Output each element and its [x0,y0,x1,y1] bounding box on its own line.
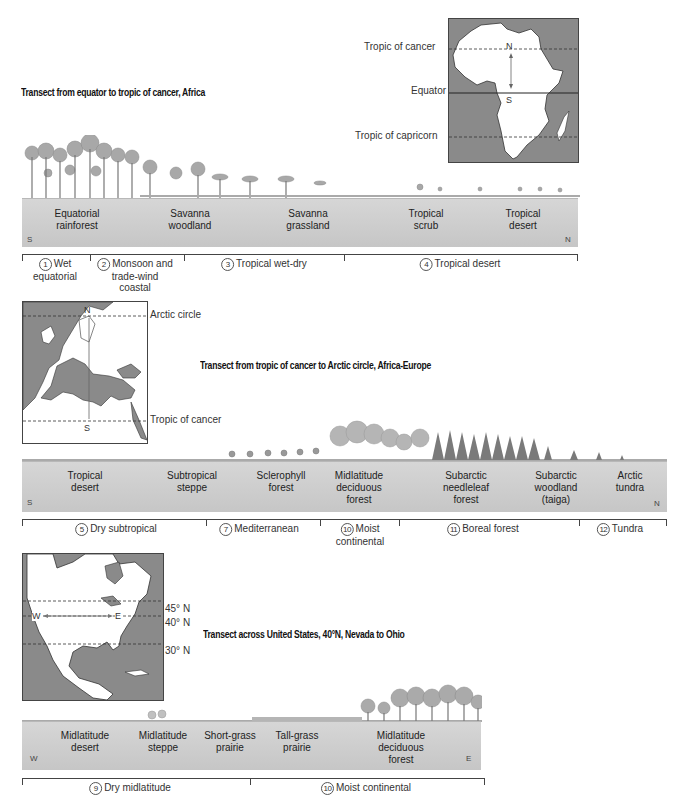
zone-line: Midlatitude [61,730,109,741]
north-america-outline [23,554,163,700]
climate-label: Monsoon and [112,258,173,269]
zone-line: Arctic [617,470,642,481]
climate-label: continental [336,536,384,547]
climate-10-moist-continental: 10Moist continental [321,782,411,795]
climate-number-badge: 5 [75,523,88,536]
climate-scale-bar [22,254,578,255]
zone-midlatitude-deciduous-forest: Midlatitudedeciduousforest [335,470,383,506]
zone-subtropical-steppe: Subtropicalsteppe [167,470,217,494]
direction-start: S [27,235,32,244]
direction-end: N [565,235,571,244]
north-america-map: W E [22,553,164,701]
scale-tick [344,255,345,261]
zone-savanna-grassland: Savannagrassland [286,208,329,232]
zone-line: steppe [177,482,207,493]
climate-number-badge: 3 [221,258,234,271]
zone-line: Tropical [67,470,102,481]
zone-arctic-tundra: Arctictundra [616,470,644,494]
zone-subarctic-woodland-taiga: Subarcticwoodland(taiga) [535,470,578,506]
zone-line: desert [71,482,99,493]
climate-number-badge: 1 [39,258,52,271]
vegetation-illustration [22,420,667,462]
climate-number-badge: 7 [219,523,232,536]
latitude-40n-label: 40° N [165,617,190,628]
latitude-30n-label: 30° N [165,645,190,656]
zone-line: scrub [414,220,438,231]
direction-end: N [654,499,660,508]
climate-7-mediterranean: 7Mediterranean [219,523,298,536]
direction-start: W [30,754,38,763]
scale-tick [22,520,23,526]
scale-tick [90,255,91,261]
zone-line: woodland [535,482,578,493]
zone-line: forest [388,754,413,765]
transect-title: Transect from tropic of cancer to Arctic… [200,360,431,371]
climate-number-badge: 2 [97,258,110,271]
zone-savanna-woodland: Savannawoodland [169,208,212,232]
west-marker: W [32,611,41,621]
zone-line: Savanna [170,208,209,219]
scale-tick [184,255,185,261]
zone-line: forest [268,482,293,493]
zone-tropical-desert: Tropicaldesert [505,208,540,232]
climate-2-monsoon: 2Monsoon andtrade-windcoastal [97,258,173,293]
climate-10-moist-continental: 10Moistcontinental [336,523,384,547]
zone-line: desert [509,220,537,231]
zone-line: Tall-grass [276,730,319,741]
zone-line: steppe [148,742,178,753]
tropic-of-cancer-label: Tropic of cancer [364,41,435,52]
climate-number-badge: 4 [420,258,433,271]
scale-tick [666,520,667,526]
scale-tick [22,255,23,261]
climate-label: Moist continental [336,782,411,793]
climate-label: Dry subtropical [90,523,157,534]
climate-label: equatorial [33,271,77,282]
zone-line: deciduous [336,482,382,493]
climate-number-badge: 12 [597,523,610,536]
climate-3-tropical-wet-dry: 3Tropical wet-dry [221,258,307,271]
latitude-45n-label: 45° N [165,603,190,614]
zone-line: Midlatitude [139,730,187,741]
climate-label: Tundra [612,523,643,534]
zone-tall-grass-prairie: Tall-grassprairie [276,730,319,754]
zone-equatorial-rainforest: Equatorialrainforest [54,208,99,232]
north-marker: N [84,305,91,315]
zone-line: grassland [286,220,329,231]
zone-line: rainforest [56,220,98,231]
scale-tick [577,255,578,261]
scale-tick [22,779,23,785]
climate-label: Boreal forest [462,523,519,534]
climate-12-tundra: 12Tundra [597,523,643,536]
climate-scale-bar [22,519,667,520]
zone-line: forest [453,494,478,505]
transect-title: Transect from equator to tropic of cance… [21,87,205,98]
zone-line: Tropical [408,208,443,219]
climate-4-tropical-desert: 4Tropical desert [420,258,501,271]
zone-line: forest [346,494,371,505]
climate-1-wet-equatorial: 1Wetequatorial [33,258,77,282]
scale-tick [399,520,400,526]
zone-line: Subarctic [535,470,577,481]
zone-line: woodland [169,220,212,231]
climate-scale-bar [22,778,485,779]
climate-5-dry-subtropical: 5Dry subtropical [75,523,157,536]
climate-label: Wet [54,258,72,269]
scale-tick [579,520,580,526]
climate-number-badge: 10 [341,523,354,536]
scale-tick [250,779,251,785]
vegetation-illustration [22,680,482,722]
zone-line: Equatorial [54,208,99,219]
climate-label: Dry midlatitude [104,782,171,793]
direction-end: E [466,754,471,763]
zone-midlatitude-deciduous-forest: Midlatitudedeciduousforest [377,730,425,766]
scale-tick [320,520,321,526]
arctic-circle-label: Arctic circle [150,309,201,320]
vegetation-illustration [20,135,580,199]
zone-line: Tropical [505,208,540,219]
climate-label: Mediterranean [234,523,298,534]
climate-label: coastal [119,282,151,293]
zone-line: Subtropical [167,470,217,481]
zone-sclerophyll-forest: Sclerophyllforest [257,470,306,494]
climate-label: Tropical desert [435,258,501,269]
zone-line: Short-grass [204,730,256,741]
